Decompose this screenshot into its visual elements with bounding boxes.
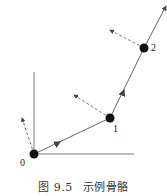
skeleton-diagram: [0, 0, 167, 196]
bone-1-2: [110, 48, 144, 118]
dashed-arrow-2: [110, 30, 144, 48]
dashed-arrow-1: [74, 95, 110, 118]
bone-0-1: [34, 118, 110, 154]
dashed-arrow-0: [22, 118, 34, 154]
joint-1: [106, 114, 115, 123]
figure-caption: 图 9.5示例骨骼: [0, 178, 167, 194]
figure-number: 图 9.5: [38, 181, 73, 194]
joint-2: [140, 44, 149, 53]
joint-0: [30, 150, 39, 159]
joint-label-0: 0: [20, 157, 25, 168]
joint-label-2: 2: [151, 42, 156, 53]
joint-label-1: 1: [113, 123, 118, 134]
figure-title: 示例骨骼: [83, 181, 129, 194]
